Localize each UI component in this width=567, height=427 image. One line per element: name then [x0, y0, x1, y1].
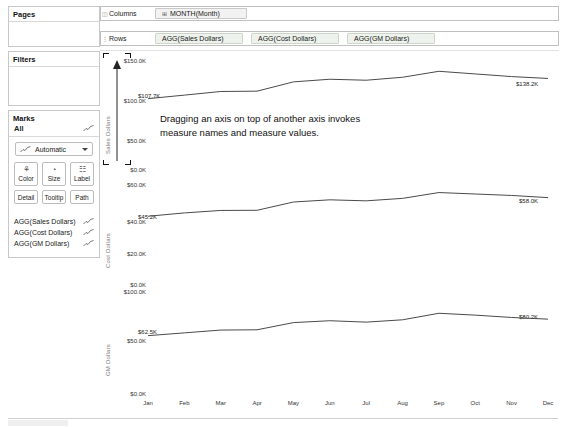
size-circle-icon: ◔	[52, 166, 57, 174]
line-chart-icon	[83, 229, 94, 236]
pill-agg-cost-dollars[interactable]: AGG(Cost Dollars)	[251, 33, 339, 44]
view-divider	[100, 50, 559, 51]
status-bar-chip	[8, 420, 68, 426]
axis-title-sales-dollars: Sales Dollars	[105, 98, 111, 154]
marks-all-row[interactable]: All	[9, 124, 99, 137]
line-chart-icon	[20, 146, 31, 153]
x-tick-label: Jul	[351, 400, 381, 406]
x-tick-label: Aug	[388, 400, 418, 406]
x-tick-label: Jan	[133, 400, 163, 406]
x-tick-label: Nov	[497, 400, 527, 406]
series-path-gm	[148, 313, 548, 335]
x-tick-label: Jun	[315, 400, 345, 406]
mark-type-dropdown[interactable]: Automatic	[15, 142, 93, 156]
footer-divider	[8, 418, 558, 419]
label-button[interactable]: ☷ Label	[70, 162, 94, 186]
marks-field-cost[interactable]: AGG(Cost Dollars)	[14, 227, 94, 238]
filters-card[interactable]: Filters	[8, 51, 100, 106]
rows-shelf-label: Rows	[109, 35, 155, 42]
expand-plus-icon: ⊞	[162, 10, 167, 17]
x-tick-label: Apr	[242, 400, 272, 406]
size-button-label: Size	[48, 175, 61, 182]
marks-button-grid: ⚘ Color ◔ Size ☷ Label Detail	[14, 162, 94, 204]
marks-field-label: AGG(Sales Dollars)	[14, 218, 75, 225]
columns-shelf[interactable]: ◫ Columns ⊞ MONTH(Month)	[100, 6, 559, 21]
path-button[interactable]: Path	[70, 190, 94, 204]
marks-all-label: All	[14, 124, 24, 133]
x-tick-label: Oct	[460, 400, 490, 406]
detail-button[interactable]: Detail	[14, 190, 38, 204]
mark-type-label: Automatic	[35, 146, 78, 153]
marks-field-list: AGG(Sales Dollars) AGG(Cost Dollars) AGG…	[9, 210, 99, 257]
x-tick-label: Dec	[533, 400, 563, 406]
axis-title-cost-dollars: Cost Dollars	[105, 218, 111, 268]
x-tick-label: Sep	[424, 400, 454, 406]
marks-field-gm[interactable]: AGG(GM Dollars)	[14, 238, 94, 249]
line-chart-icon	[83, 218, 94, 225]
pill-agg-sales-dollars[interactable]: AGG(Sales Dollars)	[155, 33, 243, 44]
pill-label: AGG(Cost Dollars)	[258, 35, 316, 42]
pill-agg-gm-dollars[interactable]: AGG(GM Dollars)	[347, 33, 435, 44]
line-chart-cost-dollars	[140, 178, 560, 290]
marks-card: Marks All Automatic ⚘	[8, 110, 100, 258]
label-tag-icon: ☷	[79, 166, 86, 174]
rows-shelf[interactable]: ⋮ Rows AGG(Sales Dollars) AGG(Cost Dolla…	[100, 31, 559, 46]
shelf-grip-icon: ⋮	[101, 32, 109, 45]
x-tick-label: May	[278, 400, 308, 406]
pill-label: AGG(Sales Dollars)	[162, 35, 223, 42]
detail-button-label: Detail	[18, 194, 35, 201]
marks-field-label: AGG(Cost Dollars)	[14, 229, 72, 236]
path-button-label: Path	[75, 194, 88, 201]
size-button[interactable]: ◔ Size	[42, 162, 66, 186]
pages-card-title: Pages	[9, 7, 99, 22]
marks-field-label: AGG(GM Dollars)	[14, 240, 69, 247]
marks-card-title: Marks	[9, 111, 99, 124]
filters-shelf-dropzone[interactable]	[9, 67, 99, 105]
color-button[interactable]: ⚘ Color	[14, 162, 38, 186]
x-tick-label: Mar	[206, 400, 236, 406]
shelf-grip-icon: ◫	[101, 7, 109, 20]
label-button-label: Label	[74, 175, 90, 182]
line-chart-icon	[83, 125, 94, 132]
line-chart-gm-dollars	[140, 286, 560, 401]
x-tick-label: Feb	[169, 400, 199, 406]
filters-card-title: Filters	[9, 52, 99, 67]
pill-month[interactable]: ⊞ MONTH(Month)	[155, 8, 247, 19]
series-path-cost	[148, 193, 548, 217]
tableau-worksheet: Pages Filters Marks All Automatic	[0, 0, 567, 427]
left-sidebar: Pages Filters Marks All Automatic	[8, 6, 100, 416]
marks-field-sales[interactable]: AGG(Sales Dollars)	[14, 216, 94, 227]
pill-label: MONTH(Month)	[170, 10, 220, 17]
pill-label: AGG(GM Dollars)	[354, 35, 409, 42]
pages-shelf-dropzone[interactable]	[9, 22, 99, 46]
color-button-label: Color	[18, 175, 34, 182]
tooltip-button[interactable]: Tooltip	[42, 190, 66, 204]
line-chart-icon	[83, 240, 94, 247]
marks-controls: Automatic ⚘ Color ◔ Size ☷ Label	[9, 137, 99, 210]
annotation-text: Dragging an axis on top of another axis …	[160, 112, 375, 140]
chart-view: Sales Dollars $150.0K $100.0K $50.0K $0.…	[100, 50, 559, 416]
tooltip-button-label: Tooltip	[45, 194, 64, 201]
pages-card[interactable]: Pages	[8, 6, 100, 47]
chevron-down-icon	[82, 148, 88, 151]
series-path-sales	[148, 71, 548, 98]
color-palette-icon: ⚘	[23, 166, 30, 174]
columns-shelf-label: Columns	[109, 10, 155, 17]
